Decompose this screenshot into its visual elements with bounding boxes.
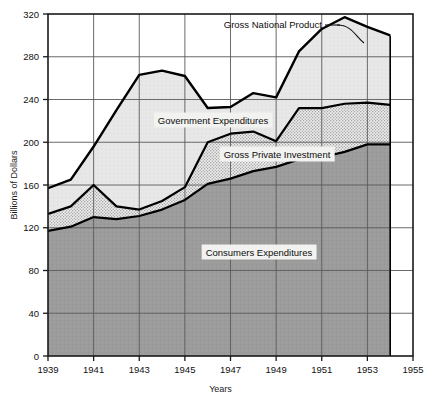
x-tick-label: 1939 [37,364,58,375]
y-tick-label: 80 [28,265,39,276]
y-tick-label: 200 [23,137,39,148]
government-expenditures-label: Government Expenditures [158,115,269,126]
y-tick-label: 120 [23,222,39,233]
x-tick-label: 1947 [220,364,241,375]
y-tick-label: 320 [23,9,39,20]
y-tick-label: 280 [23,51,39,62]
gnp-callout-label: Gross National Product [224,19,323,30]
x-tick-label: 1941 [83,364,104,375]
government-expenditures-label-group: Government Expenditures [154,113,273,128]
x-axis-title: Years [209,384,232,394]
y-tick-label: 40 [28,308,39,319]
x-tick-label: 1945 [174,364,195,375]
y-tick-label: 160 [23,180,39,191]
x-tick-label: 1949 [266,364,287,375]
area-chart: 04080120160200240280320 1939194119431945… [0,0,441,399]
consumers-expenditures-label: Consumers Expenditures [206,247,313,258]
x-tick-label: 1955 [402,364,423,375]
x-tick-label: 1953 [357,364,378,375]
x-tick-label: 1943 [129,364,150,375]
gross-private-investment-label-group: Gross Private Investment [220,147,335,162]
consumers-expenditures-label-group: Consumers Expenditures [202,245,317,260]
y-tick-label: 0 [34,351,39,362]
gross-private-investment-label: Gross Private Investment [224,149,331,160]
y-tick-label: 240 [23,94,39,105]
chart-container: 04080120160200240280320 1939194119431945… [0,0,441,399]
y-axis-title: Billions of Dollars [9,150,19,220]
x-tick-label: 1951 [311,364,332,375]
